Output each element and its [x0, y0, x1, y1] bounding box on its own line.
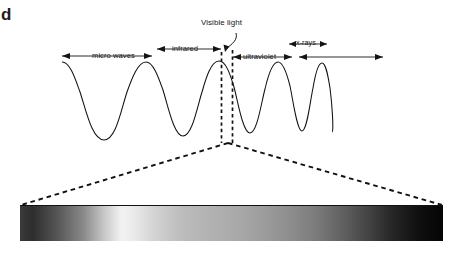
gamma-rays-arrow [299, 54, 383, 60]
visible-light-label: Visible light [201, 18, 242, 27]
expansion-cone-dashed [21, 143, 442, 205]
figure-canvas: d [0, 0, 463, 254]
infrared-label: infrared [172, 44, 198, 53]
micro-waves-label: micro waves [92, 51, 135, 60]
visible-spectrum-bar [20, 205, 443, 241]
ultraviolet-label: ultraviolet [243, 52, 276, 61]
visible-light-callout-arrow [224, 33, 237, 52]
electromagnetic-wave-curve [62, 61, 333, 140]
xrays-label: x-rays [296, 38, 316, 47]
visible-band-dashed-lines [222, 50, 233, 143]
